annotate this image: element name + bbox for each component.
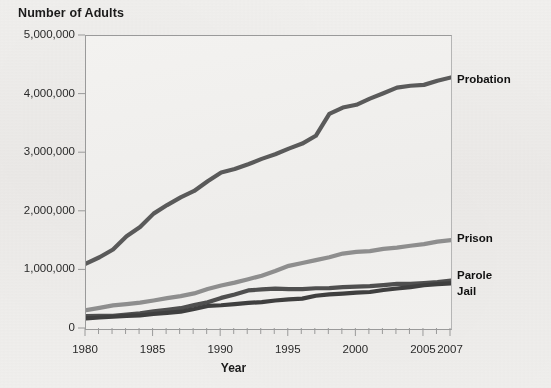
y-axis-tick-label: 4,000,000 [7, 87, 75, 99]
chart-figure: Number of Adults 01,000,0002,000,0003,00… [0, 0, 551, 388]
x-axis-tick-label: 2005 [410, 343, 436, 355]
series-label-jail: Jail [457, 285, 476, 297]
y-axis-tick-label: 3,000,000 [7, 145, 75, 157]
y-axis-tick-labels: 01,000,0002,000,0003,000,0004,000,0005,0… [3, 0, 75, 388]
y-axis-tick-label: 1,000,000 [7, 262, 75, 274]
x-axis-tick-label: 2007 [437, 343, 463, 355]
x-axis-tick-label: 1985 [140, 343, 166, 355]
series-lines [86, 36, 451, 329]
x-axis-title-text: Year [221, 361, 246, 375]
x-axis-title: Year [0, 361, 551, 375]
x-axis-tick-label: 1980 [72, 343, 98, 355]
x-axis-tick-label: 1990 [207, 343, 233, 355]
series-label-parole: Parole [457, 269, 492, 281]
plot-area [85, 35, 452, 330]
y-axis-tick-label: 0 [7, 321, 75, 333]
series-line-probation [86, 77, 451, 263]
y-axis-tick-label: 5,000,000 [7, 28, 75, 40]
y-axis-tick-label: 2,000,000 [7, 204, 75, 216]
series-line-parole [86, 281, 451, 316]
x-axis-tick-label: 2000 [343, 343, 369, 355]
x-axis-tick-labels: 1980198519901995200020052007 [0, 343, 551, 363]
series-label-probation: Probation [457, 73, 511, 85]
series-label-prison: Prison [457, 232, 493, 244]
x-axis-tick-label: 1995 [275, 343, 301, 355]
